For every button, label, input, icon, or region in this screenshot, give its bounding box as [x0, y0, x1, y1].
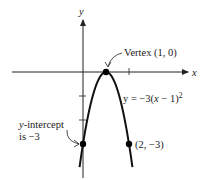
y-axis-label: y — [78, 6, 84, 17]
parabola-graph: x y Vertex (1, 0) y = −3(x − 1)2 y-inter… — [0, 0, 206, 180]
point-vertex — [103, 69, 109, 75]
point-y-intercept — [80, 141, 86, 147]
yint-rest: -intercept — [24, 119, 64, 130]
equation-label: y = −3(x − 1)2 — [123, 91, 183, 105]
y-intercept-label: y-intercept — [18, 119, 64, 130]
vertex-arrow — [105, 53, 122, 67]
y-intercept-value-label: is −3 — [19, 131, 40, 142]
eq-exp: 2 — [179, 91, 183, 100]
x-axis-label: x — [191, 67, 197, 78]
eq-post: − 1) — [159, 93, 179, 105]
vertex-label: Vertex (1, 0) — [124, 47, 177, 59]
point-2-label: (2, −3) — [135, 139, 164, 151]
eq-pre: y = −3( — [123, 93, 155, 105]
point-symmetric-point — [126, 141, 132, 147]
parabola-curve — [80, 72, 133, 167]
y-intercept-arrow — [67, 130, 79, 147]
